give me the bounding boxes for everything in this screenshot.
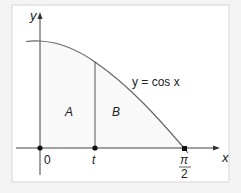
region-a-label: A — [64, 105, 73, 119]
cos-area-diagram: y x y = cos x A B 0 t π 2 — [0, 0, 241, 193]
origin-point — [37, 145, 42, 150]
pi-numerator: π — [180, 153, 189, 167]
pi-denominator: 2 — [181, 167, 188, 181]
region-b-label: B — [112, 105, 120, 119]
t-point — [92, 145, 97, 150]
origin-label: 0 — [44, 153, 51, 167]
pi-half-point — [182, 146, 187, 151]
x-axis-label: x — [221, 150, 229, 165]
curve-label: y = cos x — [132, 75, 180, 89]
